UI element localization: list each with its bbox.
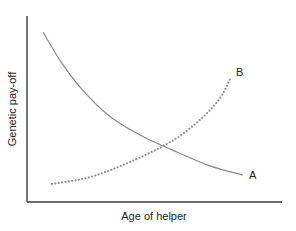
series-b-dot: [224, 88, 226, 90]
series-b-dot: [132, 159, 134, 161]
plot-area: AB: [43, 32, 257, 185]
series-b-dot: [172, 140, 174, 142]
series-b-dot: [58, 182, 60, 184]
series-b-dot: [71, 180, 73, 182]
series-b-dot: [226, 85, 228, 87]
series-b-dot: [148, 152, 150, 154]
series-b-dot: [126, 162, 128, 164]
series-b-dot: [201, 117, 203, 119]
x-axis-label: Age of helper: [121, 210, 187, 222]
series-b-dot: [160, 146, 162, 148]
series-b-dot: [74, 179, 76, 181]
series-label-a: A: [249, 169, 257, 181]
series-b-dot: [88, 176, 90, 178]
series-b-dot: [151, 151, 153, 153]
y-axis-label: Genetic pay-off: [6, 71, 18, 146]
series-b-dot: [84, 177, 86, 179]
series-b-dot: [219, 96, 221, 98]
series-b-dot: [163, 145, 165, 147]
series-b-dot: [215, 102, 217, 104]
series-label-b: B: [236, 66, 243, 78]
series-b-dot: [191, 126, 193, 128]
series-b-dot: [97, 173, 99, 175]
series-b-dot: [177, 136, 179, 138]
series-b-dot: [196, 121, 198, 123]
series-b-dot: [227, 82, 229, 84]
series-b-dot: [113, 167, 115, 169]
series-b-dot: [91, 175, 93, 177]
series-b-dot: [107, 170, 109, 172]
series-b-dot: [81, 178, 83, 180]
series-b-dot: [166, 143, 168, 145]
series-b-dot: [117, 166, 119, 168]
series-b-dot: [54, 182, 56, 184]
series-b-dot: [135, 158, 137, 160]
series-b-dot: [199, 119, 201, 121]
series-b-dot: [78, 179, 80, 181]
series-b-dot: [194, 124, 196, 126]
series-b-dot: [180, 134, 182, 136]
series-b-dot: [61, 181, 63, 183]
series-b-dot: [154, 149, 156, 151]
series-b-dot: [138, 157, 140, 159]
series-b-dot: [204, 114, 206, 116]
series-b-dot: [141, 155, 143, 157]
series-b-dot: [145, 154, 147, 156]
series-b-dot: [94, 174, 96, 176]
series-b-dot: [104, 171, 106, 173]
series-b-dot: [64, 181, 66, 183]
series-b-dot: [229, 78, 231, 80]
series-a-line: [43, 32, 243, 175]
series-b-dot: [174, 138, 176, 140]
series-b-dot: [223, 91, 225, 93]
series-b-dot: [186, 130, 188, 132]
series-b-dot: [157, 148, 159, 150]
series-b-dot: [68, 180, 70, 182]
series-b-dot: [101, 172, 103, 174]
series-b-dot: [208, 110, 210, 112]
series-b-dot: [188, 128, 190, 130]
series-b-dot: [120, 165, 122, 167]
series-b-dot: [51, 183, 53, 185]
series-b-line: [52, 77, 231, 184]
series-b-dot: [169, 141, 171, 143]
chart: AB Age of helper Genetic pay-off: [0, 0, 296, 231]
series-b-dot: [206, 112, 208, 114]
series-b-dot: [221, 94, 223, 96]
series-b-dot: [183, 132, 185, 134]
series-b-dot: [217, 99, 219, 101]
series-b-dot: [110, 169, 112, 171]
series-b-dot: [213, 104, 215, 106]
series-b-dot: [123, 164, 125, 166]
series-b-dot: [211, 107, 213, 109]
series-b-dot: [129, 161, 131, 163]
